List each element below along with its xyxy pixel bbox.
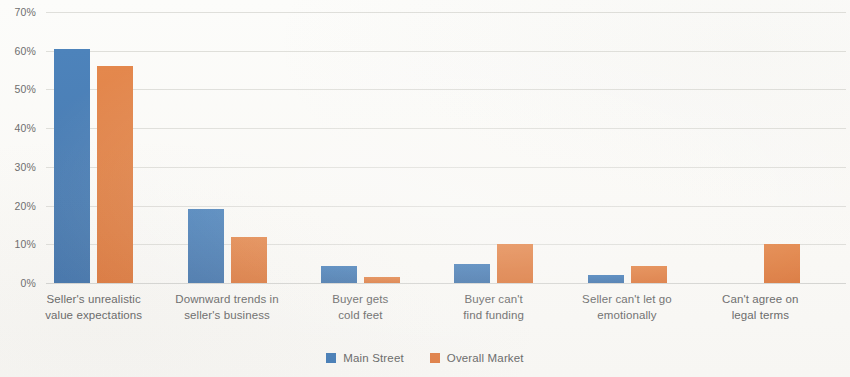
category-label-line: find funding (427, 308, 560, 324)
x-axis-category-label: Seller can't let goemotionally (560, 292, 693, 323)
category-label-line: Seller can't let go (582, 293, 672, 305)
legend-swatch-icon (326, 353, 336, 363)
gridline-20% (46, 206, 846, 207)
category-label-line: Buyer gets (332, 293, 388, 305)
y-axis-tick-label: 60% (0, 45, 36, 57)
category-label-line: value expectations (27, 308, 160, 324)
bar (97, 66, 133, 283)
x-axis-category-label: Downward trends inseller's business (160, 292, 293, 323)
bar (321, 266, 357, 283)
category-label-line: legal terms (694, 308, 827, 324)
legend-swatch-icon (430, 353, 440, 363)
y-axis-tick-label: 30% (0, 161, 36, 173)
gridline-30% (46, 167, 846, 168)
gridline-50% (46, 89, 846, 90)
category-label-line: Seller's unrealistic (47, 293, 141, 305)
y-axis-tick-label: 40% (0, 122, 36, 134)
category-label-line: emotionally (560, 308, 693, 324)
category-label-line: Downward trends in (175, 293, 278, 305)
bar-chart: 0%10%20%30%40%50%60%70% Seller's unreali… (0, 0, 850, 377)
gridline-70% (46, 12, 846, 13)
bar (497, 244, 533, 283)
bar (588, 275, 624, 283)
plot-area (46, 12, 846, 283)
category-label-line: seller's business (160, 308, 293, 324)
x-axis-category-label: Buyer can'tfind funding (427, 292, 560, 323)
gridline-40% (46, 128, 846, 129)
x-axis-category-label: Buyer getscold feet (294, 292, 427, 323)
y-axis-tick-label: 70% (0, 6, 36, 18)
chart-legend: Main StreetOverall Market (0, 352, 850, 364)
category-label-line: Can't agree on (722, 293, 798, 305)
gridline-10% (46, 244, 846, 245)
category-label-line: Buyer can't (465, 293, 523, 305)
bar (364, 277, 400, 283)
legend-item-overall-market[interactable]: Overall Market (430, 352, 524, 364)
legend-label: Overall Market (447, 352, 524, 364)
bar (631, 266, 667, 283)
bar (764, 244, 800, 283)
y-axis-tick-label: 0% (0, 277, 36, 289)
y-axis-tick-label: 10% (0, 238, 36, 250)
gridline-0% (46, 283, 846, 284)
x-axis-category-label: Seller's unrealisticvalue expectations (27, 292, 160, 323)
gridline-60% (46, 51, 846, 52)
x-axis-category-label: Can't agree onlegal terms (694, 292, 827, 323)
category-label-line: cold feet (294, 308, 427, 324)
bar (231, 237, 267, 283)
bar (54, 49, 90, 283)
legend-item-main-street[interactable]: Main Street (326, 352, 403, 364)
legend-label: Main Street (343, 352, 403, 364)
y-axis-tick-label: 50% (0, 83, 36, 95)
y-axis-tick-label: 20% (0, 200, 36, 212)
x-axis-category-labels: Seller's unrealisticvalue expectationsDo… (46, 292, 846, 338)
bar (454, 264, 490, 283)
bar (188, 209, 224, 283)
